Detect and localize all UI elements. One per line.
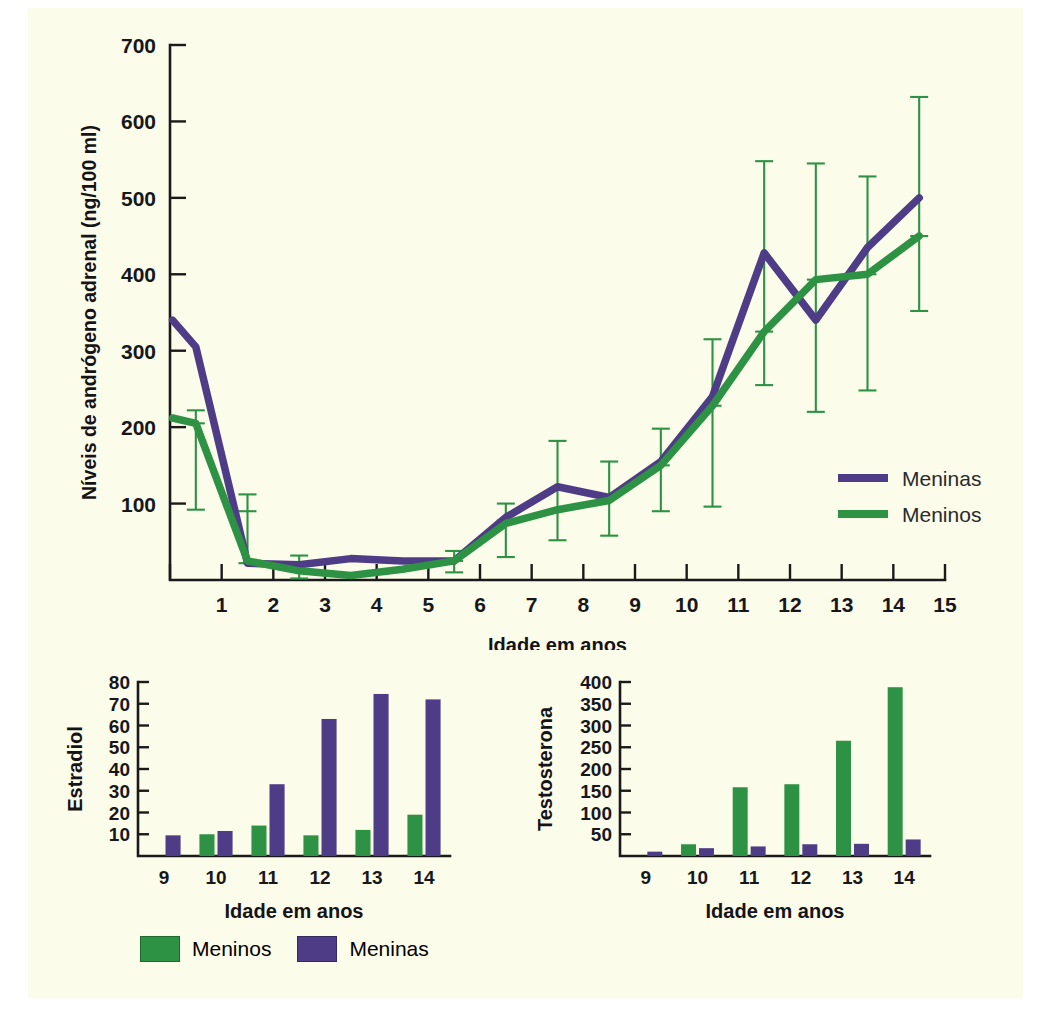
bar-meninos (733, 787, 748, 856)
series-line-meninos (173, 236, 920, 575)
legend-item-meninos: Meninos (140, 936, 271, 962)
bar-meninos (888, 687, 903, 856)
chart-axes (138, 682, 450, 856)
y-axis-tick-label: 700 (121, 34, 156, 57)
y-axis-tick-label: 100 (580, 803, 612, 824)
figure-page: 1002003004005006007001234567891011121314… (0, 0, 1050, 1010)
y-axis-tick-label: 20 (109, 803, 130, 824)
legend-label-meninos: Meninos (902, 503, 981, 526)
x-axis-tick-label: 10 (687, 867, 708, 888)
y-axis-tick-label: 50 (591, 824, 612, 845)
legend-label-meninas: Meninas (902, 467, 981, 490)
bar-meninos (303, 835, 318, 856)
y-axis-tick-label: 200 (580, 759, 612, 780)
x-axis-tick-label: 7 (526, 593, 538, 616)
y-axis-tick-label: 80 (109, 672, 130, 693)
y-axis-tick-label: 300 (580, 716, 612, 737)
error-bar (859, 176, 877, 390)
x-axis-tick-label: 10 (675, 593, 698, 616)
y-axis-tick-label: 350 (580, 694, 612, 715)
legend-item-meninas: Meninas (297, 936, 428, 962)
x-axis-tick-label: 13 (842, 867, 863, 888)
bar-meninas (647, 852, 662, 856)
x-axis-tick-label: 11 (727, 593, 750, 616)
y-axis-tick-label: 300 (121, 340, 156, 363)
x-axis-tick-label: 4 (371, 593, 383, 616)
y-axis-tick-label: 200 (121, 416, 156, 439)
bar-meninas (802, 844, 817, 856)
x-axis-tick-label: 12 (309, 867, 330, 888)
estradiol-bar-chart: 102030405060708091011121314Idade em anos… (60, 660, 520, 930)
y-axis-tick-label: 250 (580, 737, 612, 758)
y-axis-tick-label: 50 (109, 737, 130, 758)
y-axis-tick-label: 600 (121, 110, 156, 133)
x-axis-title: Idade em anos (225, 900, 364, 922)
y-axis-tick-label: 100 (121, 493, 156, 516)
bar-meninas (218, 831, 233, 856)
y-axis-tick-label: 40 (109, 759, 130, 780)
x-axis-tick-label: 9 (629, 593, 641, 616)
y-axis-tick-label: 400 (580, 672, 612, 693)
bar-meninas (699, 848, 714, 856)
y-axis-title: Testosterona (534, 706, 556, 831)
y-axis-title: Estradiol (64, 726, 86, 812)
bar-meninas (166, 835, 181, 856)
x-axis-tick-label: 2 (267, 593, 279, 616)
x-axis-tick-label: 11 (258, 867, 279, 888)
x-axis-tick-label: 13 (361, 867, 382, 888)
y-axis-tick-label: 30 (109, 781, 130, 802)
bar-meninos (681, 844, 696, 856)
x-axis-tick-label: 5 (422, 593, 434, 616)
legend-label-meninos: Meninos (192, 937, 271, 961)
legend-swatch-meninas (297, 936, 337, 962)
bar-meninos (251, 826, 266, 856)
y-axis-tick-label: 500 (121, 187, 156, 210)
x-axis-tick-label: 1 (216, 593, 228, 616)
bar-meninos (199, 834, 214, 856)
y-axis-tick-label: 400 (121, 263, 156, 286)
bar-meninas (322, 719, 337, 856)
y-axis-tick-label: 150 (580, 781, 612, 802)
y-axis-tick-label: 60 (109, 716, 130, 737)
legend-swatch-meninos (140, 936, 180, 962)
x-axis-tick-label: 13 (830, 593, 853, 616)
y-axis-tick-label: 70 (109, 694, 130, 715)
bar-meninos (355, 830, 370, 856)
legend-label-meninas: Meninas (349, 937, 428, 961)
bar-meninos (784, 784, 799, 856)
bar-meninas (374, 694, 389, 856)
x-axis-tick-label: 11 (739, 867, 760, 888)
chart-axes (620, 682, 930, 856)
error-bar (704, 339, 722, 506)
x-axis-tick-label: 14 (882, 593, 906, 616)
bar-meninas (906, 839, 921, 856)
x-axis-tick-label: 9 (641, 867, 652, 888)
x-axis-title: Idade em anos (488, 634, 627, 650)
y-axis-title: Níveis de andrógeno adrenal (ng/100 ml) (78, 125, 100, 500)
bar-meninas (751, 846, 766, 856)
testosterona-bar-chart: 5010015020025030035040091011121314Idade … (530, 660, 1000, 930)
x-axis-tick-label: 9 (159, 867, 170, 888)
bottom-legend: Meninos Meninas (140, 936, 429, 962)
x-axis-tick-label: 14 (413, 867, 435, 888)
adrenal-androgen-line-chart: 1002003004005006007001234567891011121314… (0, 0, 1050, 650)
bar-meninas (426, 699, 441, 856)
bar-meninas (854, 844, 869, 856)
x-axis-tick-label: 12 (790, 867, 811, 888)
x-axis-tick-label: 15 (933, 593, 957, 616)
x-axis-tick-label: 12 (778, 593, 801, 616)
bar-meninos (407, 815, 422, 856)
x-axis-title: Idade em anos (706, 900, 845, 922)
bar-meninos (836, 741, 851, 856)
x-axis-tick-label: 14 (894, 867, 916, 888)
x-axis-tick-label: 3 (319, 593, 331, 616)
y-axis-tick-label: 10 (109, 824, 130, 845)
x-axis-tick-label: 10 (205, 867, 226, 888)
x-axis-tick-label: 6 (474, 593, 486, 616)
bar-meninas (270, 784, 285, 856)
x-axis-tick-label: 8 (577, 593, 589, 616)
